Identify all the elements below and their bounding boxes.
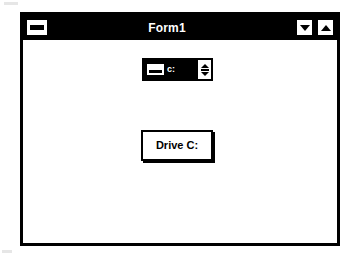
form-window: Form1 c: bbox=[20, 12, 340, 246]
scan-artifact bbox=[2, 250, 12, 253]
scan-artifact bbox=[4, 2, 18, 5]
hard-drive-icon bbox=[146, 63, 165, 76]
title-bar[interactable]: Form1 bbox=[23, 15, 337, 40]
drive-combo-dropdown-button[interactable] bbox=[196, 60, 211, 79]
title-bar-buttons bbox=[295, 18, 335, 37]
double-arrow-divider bbox=[201, 69, 209, 71]
drive-combo-field[interactable]: c: bbox=[144, 60, 196, 79]
triangle-down-icon bbox=[300, 25, 310, 31]
drive-c-button[interactable]: Drive C: bbox=[141, 130, 213, 161]
drive-list-box[interactable]: c: bbox=[142, 58, 213, 81]
form-client-area: c: Drive C: bbox=[23, 40, 337, 243]
drive-c-button-label: Drive C: bbox=[156, 140, 198, 151]
triangle-up-icon bbox=[321, 25, 331, 31]
up-down-double-arrow-icon bbox=[201, 72, 209, 76]
maximize-button[interactable] bbox=[316, 18, 335, 37]
window-title: Form1 bbox=[39, 22, 295, 34]
minimize-button[interactable] bbox=[295, 18, 314, 37]
drive-combo-value: c: bbox=[167, 65, 175, 74]
screenshot-root: Form1 c: bbox=[0, 0, 360, 264]
up-down-double-arrow-icon bbox=[201, 64, 209, 68]
